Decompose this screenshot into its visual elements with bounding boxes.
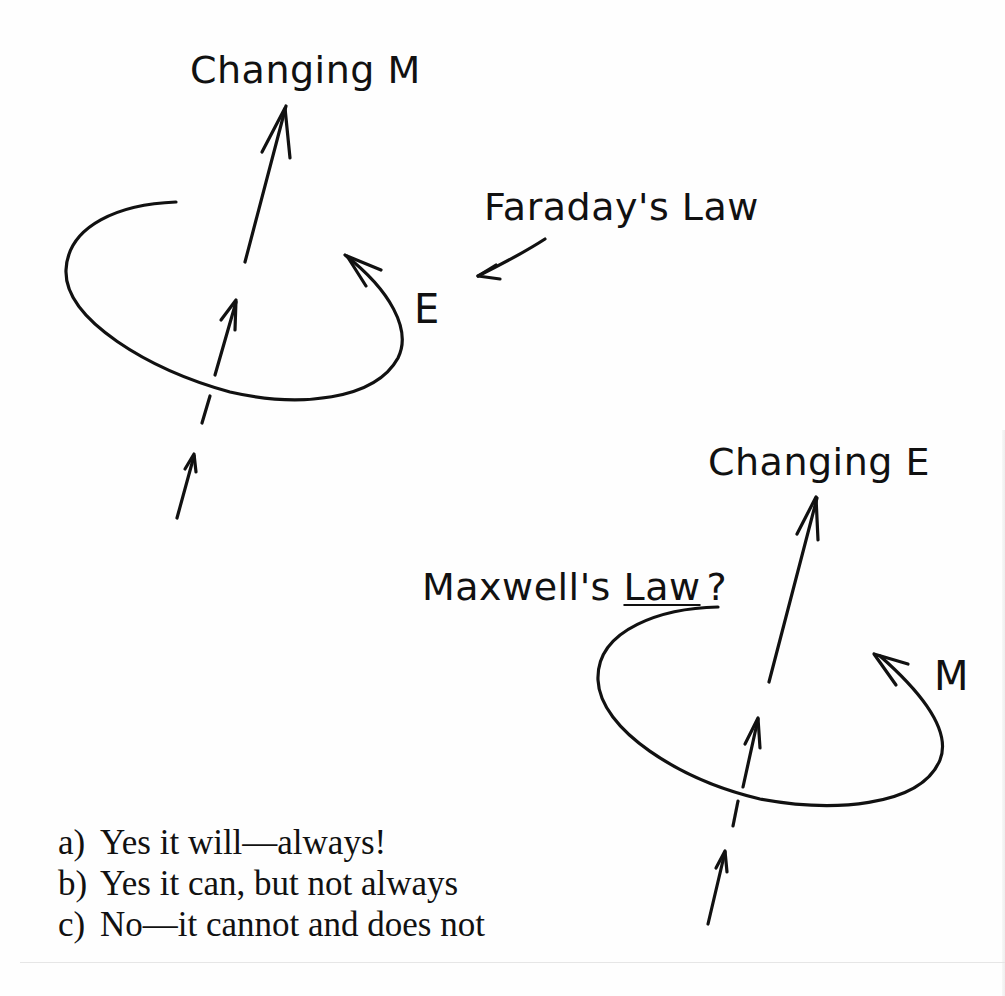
m-field-label: M [934, 653, 969, 699]
option-a[interactable]: a) Yes it will—always! [58, 822, 485, 863]
maxwell-law-main: Maxwell's [422, 565, 623, 609]
maxwell-law-suffix: ? [707, 565, 728, 609]
option-text: Yes it will—always! [100, 822, 386, 863]
mid-arrow-shaft-2 [743, 719, 758, 787]
faraday-law-label: Faraday's Law [484, 185, 759, 229]
option-key: b) [58, 863, 100, 904]
m-loop [598, 607, 943, 805]
option-text: Yes it can, but not always [100, 863, 458, 904]
faraday-figure [66, 106, 545, 518]
changing-m-label: Changing M [190, 48, 421, 92]
bottom-arrow-shaft-2 [708, 852, 725, 924]
option-c[interactable]: c) No—it cannot and does not [58, 904, 485, 945]
changing-m-arrow [245, 106, 286, 262]
bottom-rule-divider [20, 962, 1005, 963]
dash-segment-2 [733, 801, 738, 826]
option-key: a) [58, 822, 100, 863]
e-field-label: E [414, 286, 440, 332]
maxwell-law-underlined: Law [623, 565, 700, 609]
changing-e-label: Changing E [708, 440, 930, 484]
answer-options: a) Yes it will—always! b) Yes it can, bu… [58, 822, 485, 945]
diagram-canvas: Changing M Faraday's Law E Changing E Ma… [0, 0, 1005, 996]
option-key: c) [58, 904, 100, 945]
changing-m-arrowhead [262, 108, 290, 158]
option-text: No—it cannot and does not [100, 904, 485, 945]
m-loop-arrowhead [874, 654, 908, 685]
option-b[interactable]: b) Yes it can, but not always [58, 863, 485, 904]
dash-segment [202, 396, 210, 423]
maxwell-figure [598, 497, 943, 924]
maxwell-law-label: Maxwell's Law? [422, 565, 727, 609]
changing-e-arrow [769, 498, 817, 682]
